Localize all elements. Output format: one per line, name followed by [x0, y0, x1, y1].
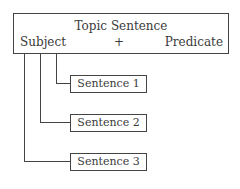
sentence-3-box: Sentence 3 — [70, 153, 147, 171]
connector-sentence-1-horizontal — [56, 83, 70, 84]
connector-sentence-2-vertical — [40, 54, 41, 123]
connector-sentence-3-vertical — [24, 54, 25, 162]
connector-sentence-3-horizontal — [24, 161, 70, 162]
plus-sign: + — [114, 35, 124, 49]
sentence-1-box: Sentence 1 — [70, 75, 147, 93]
topic-sentence-box: Topic Sentence Subject + Predicate — [13, 13, 229, 54]
sentence-1-label: Sentence 1 — [77, 77, 139, 90]
sentence-2-label: Sentence 2 — [77, 116, 139, 129]
topic-sentence-title: Topic Sentence — [14, 19, 228, 33]
subject-label: Subject — [20, 35, 66, 49]
connector-sentence-1-vertical — [56, 54, 57, 84]
connector-sentence-2-horizontal — [40, 122, 70, 123]
sentence-3-label: Sentence 3 — [77, 155, 139, 168]
predicate-label: Predicate — [165, 35, 223, 49]
sentence-2-box: Sentence 2 — [70, 114, 147, 132]
